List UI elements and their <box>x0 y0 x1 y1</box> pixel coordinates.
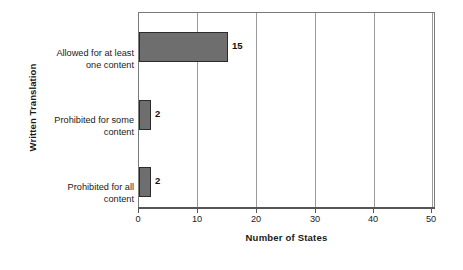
category-axis-labels: Allowed for at least one content Prohibi… <box>30 12 134 208</box>
bar-1 <box>139 100 151 130</box>
category-label-2-line-0: Prohibited for all <box>68 182 134 192</box>
bar-value-1: 2 <box>155 108 160 119</box>
bar-value-0: 15 <box>232 40 243 51</box>
x-tick-label-10: 10 <box>177 214 217 224</box>
x-tick-50 <box>431 208 432 213</box>
category-label-0: Allowed for at least one content <box>30 48 134 71</box>
gridline-50 <box>432 13 433 207</box>
x-tick-0 <box>138 208 139 213</box>
x-tick-10 <box>197 208 198 213</box>
category-label-1: Prohibited for some content <box>30 115 134 138</box>
category-label-2: Prohibited for all content <box>30 182 134 205</box>
plot-area: 15 2 2 <box>138 12 435 208</box>
x-tick-label-0: 0 <box>118 214 158 224</box>
category-label-0-line-0: Allowed for at least <box>56 48 134 58</box>
x-tick-label-40: 40 <box>353 214 393 224</box>
gridline-40 <box>374 13 375 207</box>
x-tick-40 <box>373 208 374 213</box>
category-label-0-line-1: one content <box>86 60 134 70</box>
bar-value-2: 2 <box>155 175 160 186</box>
x-tick-20 <box>256 208 257 213</box>
gridline-30 <box>315 13 316 207</box>
category-label-1-line-0: Prohibited for some <box>54 115 134 125</box>
x-tick-label-20: 20 <box>236 214 276 224</box>
gridline-20 <box>256 13 257 207</box>
x-tick-30 <box>315 208 316 213</box>
bar-2 <box>139 167 151 197</box>
x-tick-label-30: 30 <box>295 214 335 224</box>
category-label-1-line-1: content <box>104 127 134 137</box>
x-tick-label-50: 50 <box>411 214 451 224</box>
bar-0 <box>139 32 228 62</box>
x-axis-line <box>138 207 435 209</box>
x-axis-title: Number of States <box>138 232 435 243</box>
bar-chart-figure: Written Translation Allowed for at least… <box>0 0 463 270</box>
category-label-2-line-1: content <box>104 194 134 204</box>
